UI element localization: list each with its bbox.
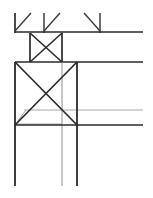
line-drawing-svg [0, 0, 153, 198]
drawing-canvas [0, 0, 153, 198]
